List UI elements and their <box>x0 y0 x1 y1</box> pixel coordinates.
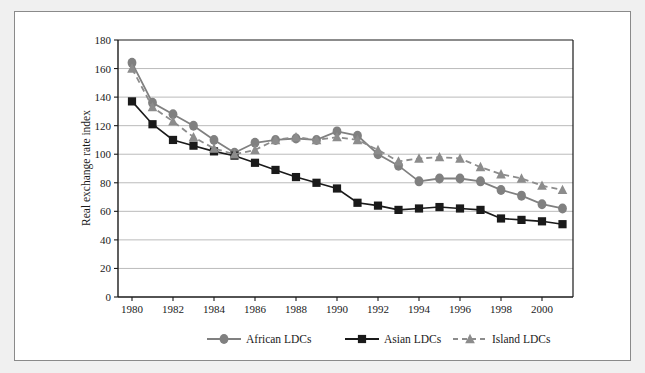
y-tick-label-40: 40 <box>100 234 112 246</box>
data-point-2000 <box>538 217 546 225</box>
x-tick-label-1996: 1996 <box>449 303 472 315</box>
legend-label: African LDCs <box>246 333 312 345</box>
data-point-1995 <box>435 203 443 211</box>
data-point-2000 <box>538 199 547 209</box>
data-point-1995 <box>435 173 444 183</box>
data-point-1997 <box>476 176 485 186</box>
data-point-1999 <box>517 191 526 201</box>
data-point-1987 <box>271 166 279 174</box>
data-point-1992 <box>374 202 382 210</box>
data-point-1994 <box>415 204 423 212</box>
x-tick-label-1990: 1990 <box>326 303 349 315</box>
data-point-1988 <box>292 173 300 181</box>
x-tick-label-1992: 1992 <box>367 303 389 315</box>
x-tick-label-2000: 2000 <box>531 303 554 315</box>
legend-marker <box>358 335 366 343</box>
data-point-1996 <box>456 204 464 212</box>
data-point-1994 <box>415 176 424 186</box>
y-tick-label-160: 160 <box>95 63 112 75</box>
x-tick-label-1988: 1988 <box>285 303 308 315</box>
data-point-2001 <box>558 220 566 228</box>
data-point-2001 <box>558 203 567 213</box>
legend-item-african-ldcs[interactable]: African LDCs <box>207 333 312 345</box>
x-tick-label-1986: 1986 <box>244 303 267 315</box>
data-point-1980 <box>128 97 136 105</box>
data-point-1983 <box>189 121 198 131</box>
data-point-1982 <box>169 136 177 144</box>
data-point-1989 <box>312 179 320 187</box>
data-point-1998 <box>497 214 505 222</box>
data-point-1991 <box>353 199 361 207</box>
x-tick-label-1998: 1998 <box>490 303 513 315</box>
data-point-1993 <box>394 206 402 214</box>
x-tick-label-1982: 1982 <box>162 303 184 315</box>
legend-label: Asian LDCs <box>384 333 442 345</box>
data-point-1999 <box>517 216 525 224</box>
chart-area: 020406080100120140160180 198019821984198… <box>15 12 632 362</box>
legend-item-island-ldcs[interactable]: Island LDCs <box>453 333 551 345</box>
data-point-1981 <box>148 120 156 128</box>
legend-item-asian-ldcs[interactable]: Asian LDCs <box>345 333 442 345</box>
data-point-1996 <box>456 173 465 183</box>
y-axis-title: Real exchange rate index <box>80 110 93 226</box>
y-tick-label-60: 60 <box>100 205 112 217</box>
y-tick-label-180: 180 <box>95 34 112 46</box>
data-point-1998 <box>497 185 506 195</box>
real-exchange-rate-line-chart: 020406080100120140160180 198019821984198… <box>15 12 632 362</box>
data-point-1983 <box>189 142 197 150</box>
data-point-1997 <box>476 206 484 214</box>
plot-background <box>118 40 573 297</box>
x-tick-label-1984: 1984 <box>203 303 226 315</box>
y-tick-label-80: 80 <box>100 177 112 189</box>
y-tick-label-100: 100 <box>95 148 112 160</box>
figure-root: 020406080100120140160180 198019821984198… <box>0 0 645 373</box>
x-tick-label-1980: 1980 <box>121 303 144 315</box>
y-tick-label-120: 120 <box>95 120 112 132</box>
chart-legend: African LDCsAsian LDCsIsland LDCs <box>207 333 551 345</box>
data-point-1990 <box>333 184 341 192</box>
legend-label: Island LDCs <box>492 333 551 345</box>
x-tick-label-1994: 1994 <box>408 303 431 315</box>
y-tick-label-20: 20 <box>100 262 112 274</box>
data-point-1986 <box>251 159 259 167</box>
x-axis-ticks: 1980198219841986198819901992199419961998… <box>121 297 554 315</box>
y-tick-label-0: 0 <box>106 291 112 303</box>
y-tick-label-140: 140 <box>95 91 112 103</box>
y-axis-ticks: 020406080100120140160180 <box>95 34 119 303</box>
figure-frame: 020406080100120140160180 198019821984198… <box>14 11 631 361</box>
legend-marker <box>220 334 229 344</box>
